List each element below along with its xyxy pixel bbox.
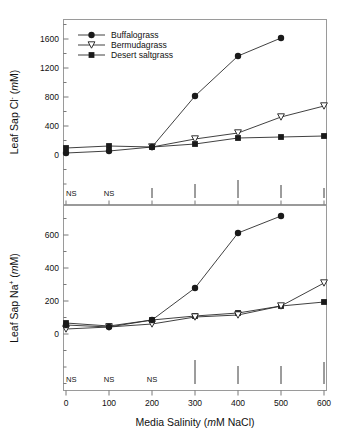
upper-ylabel-unit-ital: m	[8, 82, 20, 91]
x-axis-tick-labels: 0 100 200 300 400 500 600	[64, 398, 332, 408]
lower-y-axis-title: Leaf Sap Na+ (mM)	[8, 253, 20, 343]
ns-label-0: NS	[66, 375, 77, 384]
ytick-400: 400	[45, 263, 59, 273]
xtick-400: 400	[231, 398, 245, 408]
xtick-100: 100	[102, 398, 116, 408]
ns-label-200: NS	[147, 375, 158, 384]
ytick-800: 800	[45, 92, 59, 102]
x-axis-title: Media Salinity (mM NaCl)	[135, 416, 254, 428]
ns-label-100: NS	[104, 189, 115, 198]
legend-entry-bermudagrass: Bermudagrass	[78, 40, 167, 50]
x-axis-title-tail: M NaCl)	[216, 416, 255, 428]
x-axis-ticks	[66, 391, 324, 396]
ytick-200: 200	[45, 296, 59, 306]
ytick-600: 600	[45, 230, 59, 240]
two-panel-line-chart: 1600 1200 800 400 0 Leaf Sap Cl- (mM)	[0, 0, 344, 434]
upper-y-tick-labels: 1600 1200 800 400 0	[40, 34, 59, 160]
lower-ylabel-unit-ital: m	[8, 265, 20, 274]
upper-ylabel-prefix: Leaf Sap Cl	[8, 99, 20, 154]
lower-ylabel-unit-close: M)	[8, 253, 20, 265]
xtick-0: 0	[64, 398, 69, 408]
legend-label-buffalograss: Buffalograss	[111, 30, 159, 40]
filled-circle-icon	[88, 32, 94, 38]
lower-ylabel-prefix: Leaf Sap Na	[8, 284, 20, 343]
filled-square-icon	[89, 52, 95, 58]
xtick-600: 600	[317, 398, 331, 408]
svg-text:Leaf Sap Na+ (mM): Leaf Sap Na+ (mM)	[8, 253, 20, 343]
xtick-500: 500	[274, 398, 288, 408]
ytick-0: 0	[54, 150, 59, 160]
lower-panel: 600 400 200 0 Leaf Sap Na+ (mM)	[8, 206, 331, 429]
upper-plot-frame	[64, 20, 327, 205]
legend-label-bermudagrass: Bermudagrass	[111, 40, 167, 50]
lower-y-tick-labels: 600 400 200 0	[45, 230, 59, 339]
ytick-1600: 1600	[40, 34, 59, 44]
x-axis-title-main: Media Salinity (	[135, 416, 207, 428]
legend-label-desert-saltgrass: Desert saltgrass	[111, 50, 173, 60]
ytick-1200: 1200	[40, 63, 59, 73]
svg-text:Leaf Sap Cl- (mM): Leaf Sap Cl- (mM)	[8, 70, 20, 155]
upper-ylabel-unit-close: M)	[8, 70, 20, 82]
upper-y-axis-title: Leaf Sap Cl- (mM)	[8, 70, 20, 155]
ns-label-100: NS	[104, 375, 115, 384]
xtick-300: 300	[188, 398, 202, 408]
x-axis-title-italic: m	[207, 416, 216, 428]
upper-panel: 1600 1200 800 400 0 Leaf Sap Cl- (mM)	[8, 20, 327, 205]
ytick-0: 0	[54, 329, 59, 339]
ns-label-0: NS	[66, 189, 77, 198]
ytick-400: 400	[45, 121, 59, 131]
xtick-200: 200	[145, 398, 159, 408]
figure-container: 1600 1200 800 400 0 Leaf Sap Cl- (mM)	[0, 0, 344, 434]
